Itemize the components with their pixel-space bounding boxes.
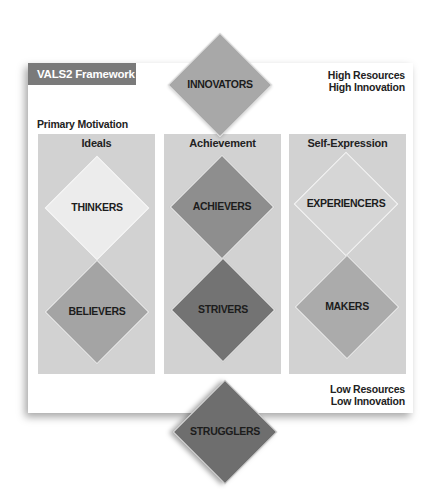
strugglers-label: STRUGGLERS [165, 425, 285, 437]
framework-title: VALS2 Framework [28, 63, 136, 85]
experiencers-label: EXPERIENCERS [286, 197, 406, 209]
primary-motivation-label: Primary Motivation [37, 118, 128, 130]
high-innovation-text: High Innovation [328, 81, 405, 93]
low-resources-text: Low Resources [330, 383, 405, 395]
high-resources-label: High Resources High Innovation [328, 69, 405, 93]
column-title-self-expression: Self-Expression [289, 137, 406, 149]
low-resources-label: Low Resources Low Innovation [330, 383, 405, 407]
achievers-label: ACHIEVERS [162, 200, 282, 212]
low-innovation-text: Low Innovation [330, 395, 405, 407]
innovators-label: INNOVATORS [160, 78, 280, 90]
believers-label: BELIEVERS [37, 305, 157, 317]
column-title-achievement: Achievement [164, 137, 281, 149]
high-resources-text: High Resources [328, 69, 405, 81]
column-title-ideals: Ideals [38, 137, 155, 149]
thinkers-label: THINKERS [37, 201, 157, 213]
strivers-label: STRIVERS [163, 303, 283, 315]
makers-label: MAKERS [287, 300, 407, 312]
